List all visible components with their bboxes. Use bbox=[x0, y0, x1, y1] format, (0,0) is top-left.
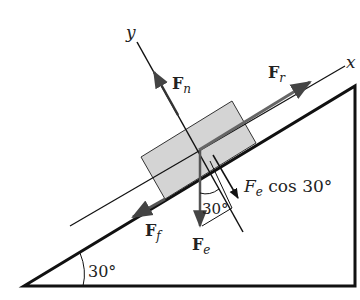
incline-angle-label: 30° bbox=[88, 262, 116, 281]
incline-angle-arc bbox=[80, 253, 84, 286]
weight-component-label: Fe cos 30° bbox=[243, 176, 332, 199]
normal-force-label: Fn bbox=[172, 74, 191, 96]
weight-angle-arc bbox=[200, 189, 219, 194]
weight-angle-label: 30° bbox=[202, 200, 229, 218]
block bbox=[141, 101, 256, 199]
friction-force-label: Ff bbox=[145, 221, 163, 243]
applied-force-label: Fr bbox=[268, 63, 286, 85]
x-axis-label: x bbox=[346, 52, 356, 72]
weight-force-label: Fe bbox=[192, 235, 210, 257]
friction-arrow bbox=[133, 199, 165, 217]
incline-diagram: y x Fn Fr Ff Fe Fe cos 30° 30° 30° bbox=[0, 0, 360, 300]
y-axis-label: y bbox=[125, 22, 136, 42]
